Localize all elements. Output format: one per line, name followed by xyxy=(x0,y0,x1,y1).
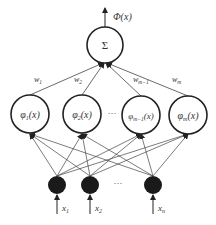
hidden-node-1: φ1(x) xyxy=(11,95,49,133)
hidden-node-m-1: φm−1(x) xyxy=(122,96,160,134)
svg-text:wm−1: wm−1 xyxy=(133,75,149,85)
svg-text:x1: x1 xyxy=(61,203,69,214)
input-connections xyxy=(30,134,188,176)
svg-text:w1: w1 xyxy=(34,75,42,85)
input-node-2: x2 xyxy=(81,176,102,214)
sum-symbol: Σ xyxy=(102,39,108,51)
svg-text:w2: w2 xyxy=(74,75,82,85)
weight-labels: w1 w2 wm−1 wm xyxy=(34,75,181,85)
svg-text:wm: wm xyxy=(172,75,181,85)
input-node-1: x1 xyxy=(48,176,69,214)
rbf-network-diagram: Φ(x) Σ w1 w2 wm−1 wm φ1(x) φ2(x) xyxy=(0,0,216,225)
input-node-n: xn xyxy=(144,176,165,214)
output-label: Φ(x) xyxy=(113,11,132,23)
svg-text:φm(x): φm(x) xyxy=(178,110,200,122)
svg-text:xn: xn xyxy=(157,203,165,214)
input-ellipsis: ··· xyxy=(114,178,123,188)
hidden-ellipsis: ··· xyxy=(108,108,117,118)
svg-text:φ1(x): φ1(x) xyxy=(20,109,40,121)
svg-text:φ2(x): φ2(x) xyxy=(72,109,92,121)
hidden-node-2: φ2(x) xyxy=(63,95,101,133)
hidden-node-m: φm(x) xyxy=(169,96,207,134)
svg-text:x2: x2 xyxy=(94,203,102,214)
weight-connections xyxy=(30,63,188,96)
